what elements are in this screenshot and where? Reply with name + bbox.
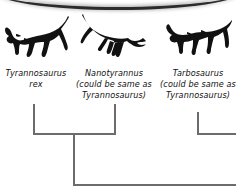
taxon-nanotyrannus: Nanotyrannus (could be same as Tyrannosa… xyxy=(80,6,148,62)
taxon-tyrannosaurus-rex: Tyrannosaurus rex xyxy=(2,6,70,62)
label-line: rex xyxy=(0,79,72,90)
clade-bar-tarbosaurus xyxy=(197,133,236,135)
label-line: Tarbosaurus xyxy=(156,68,236,79)
taxon-tarbosaurus: Tarbosaurus (could be same as Tyrannosau… xyxy=(163,6,233,62)
label-line: (could be same as xyxy=(156,79,236,90)
taxon-label-nanotyrannus: Nanotyrannus (could be same as Tyrannosa… xyxy=(72,68,156,101)
root-bar xyxy=(73,184,236,186)
label-line: Nanotyrannus xyxy=(72,68,156,79)
cladogram-figure: Tyrannosaurus rex Nanotyrannus (could be… xyxy=(0,0,236,189)
label-line: Tyrannosaurus) xyxy=(72,90,156,101)
stem-clade-a xyxy=(73,133,75,186)
label-line: (could be same as xyxy=(72,79,156,90)
branch-tyrannosaurus-rex xyxy=(33,104,35,135)
nanotyrannus-silhouette-icon xyxy=(80,6,148,62)
branch-tarbosaurus xyxy=(197,112,199,135)
tyrannosaurus-silhouette-icon xyxy=(2,6,70,62)
taxon-label-tarbosaurus: Tarbosaurus (could be same as Tyrannosau… xyxy=(156,68,236,101)
label-line: Tyrannosaurus) xyxy=(156,90,236,101)
label-line: Tyrannosaurus xyxy=(0,68,72,79)
tarbosaurus-silhouette-icon xyxy=(163,6,233,62)
branch-nanotyrannus xyxy=(114,104,116,135)
taxon-label-tyrannosaurus-rex: Tyrannosaurus rex xyxy=(0,68,72,90)
